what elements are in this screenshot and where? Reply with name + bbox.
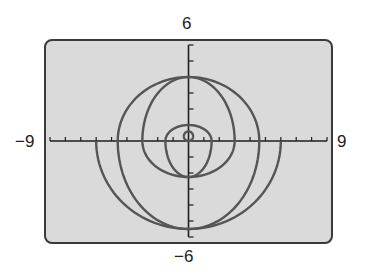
graph-screen [0,0,367,274]
